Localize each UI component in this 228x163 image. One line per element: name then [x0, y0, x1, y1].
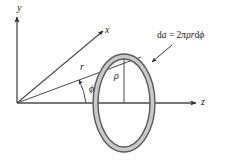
y-axis-label: y	[17, 3, 21, 13]
azimuth-angle-label: ϕ	[89, 84, 94, 94]
radius-vector-label: r	[80, 62, 84, 72]
diagram-canvas	[0, 0, 228, 163]
azimuth-angle-arc	[79, 80, 86, 103]
equation-phi: ϕ	[199, 30, 204, 40]
x-axis-label: x	[105, 25, 109, 35]
annotation-leader-arrow	[152, 45, 172, 62]
equation-equals: = 2	[167, 30, 182, 40]
z-axis-label: z	[201, 97, 205, 107]
area-element-equation: da = 2πρrdϕ	[157, 31, 204, 41]
physics-diagram-figure: y x z r ϕ ρ da = 2πρrdϕ	[0, 0, 228, 163]
ring-radius-label: ρ	[114, 71, 119, 81]
